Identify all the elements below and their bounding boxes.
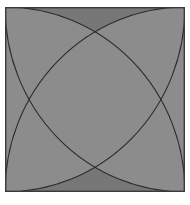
page-root: A square divided by four circular arcs, … xyxy=(0,0,190,205)
figure-container xyxy=(5,7,185,192)
figure-artwork xyxy=(5,7,185,192)
four-arc-figure xyxy=(5,7,185,192)
